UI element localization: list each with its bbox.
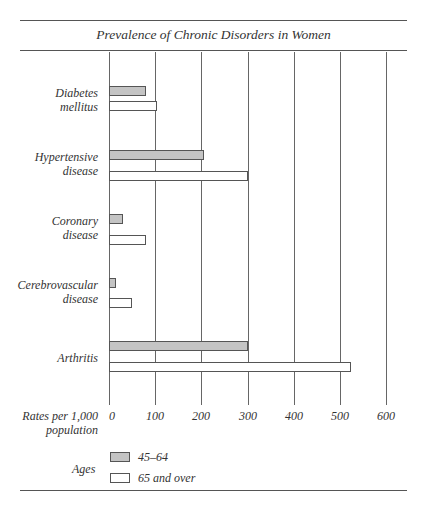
legend-swatch-65-over [110, 473, 130, 483]
bar [109, 298, 132, 308]
bar [109, 362, 351, 372]
x-tick-label: 600 [377, 409, 395, 424]
gridline [386, 52, 387, 405]
x-tick-label: 300 [239, 409, 257, 424]
bar [109, 341, 248, 351]
bar [109, 101, 157, 111]
bar [109, 235, 146, 245]
gridline [248, 52, 249, 405]
legend-label-45-64: 45–64 [138, 450, 168, 465]
gridline [294, 52, 295, 405]
legend-label-65-over: 65 and over [138, 471, 195, 486]
gridline [201, 52, 202, 405]
category-label: Arthritis [57, 351, 98, 365]
bar [109, 171, 248, 181]
bar [109, 278, 116, 288]
gridline [340, 52, 341, 405]
x-tick-label: 400 [285, 409, 303, 424]
bottom-rule [20, 490, 407, 491]
category-label: Diabetesmellitus [55, 86, 98, 114]
bar [109, 86, 146, 96]
category-label: Cerebrovasculardisease [18, 278, 98, 306]
top-rule [20, 20, 407, 21]
x-axis-label: Rates per 1,000 population [22, 409, 98, 437]
x-axis-label-line2: population [22, 423, 98, 437]
bar [109, 214, 123, 224]
category-label: Coronarydisease [52, 214, 98, 242]
legend-title: Ages [72, 462, 95, 477]
category-label: Hypertensivedisease [35, 150, 98, 178]
chart-title: Prevalence of Chronic Disorders in Women [20, 27, 407, 43]
x-tick-label: 500 [331, 409, 349, 424]
x-tick-label: 200 [192, 409, 210, 424]
bar [109, 150, 204, 160]
title-rule [20, 50, 407, 51]
x-axis-label-line1: Rates per 1,000 [22, 409, 98, 423]
x-tick-label: 0 [109, 409, 115, 424]
x-tick-label: 100 [146, 409, 164, 424]
legend-swatch-45-64 [110, 452, 130, 462]
